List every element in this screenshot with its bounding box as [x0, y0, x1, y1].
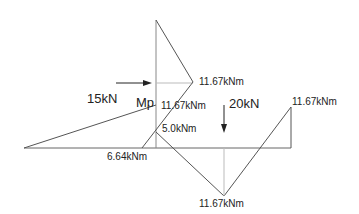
point-label-mp: Mp [136, 96, 154, 109]
moment-label-beam-left: 6.64kNm [107, 152, 147, 162]
left-beam-moment-line [24, 105, 156, 148]
horizontal-load-arrow-icon [116, 80, 152, 86]
vertical-load-arrow-icon [221, 105, 227, 133]
moment-label-beam-right: 11.67kNm [292, 97, 337, 107]
moment-label-column-mid: 5.0kNm [162, 124, 196, 134]
moment-label-beam-midspan: 11.67kNm [199, 199, 244, 209]
moment-label-column-joint: 11.67kNm [199, 77, 244, 87]
moment-label-column-top: 11.67kNm [161, 101, 206, 111]
horizontal-load-label: 15kN [87, 92, 117, 105]
vertical-load-label: 20kN [229, 97, 259, 110]
